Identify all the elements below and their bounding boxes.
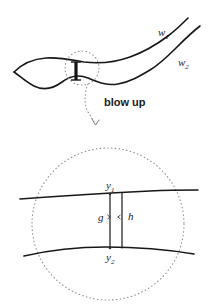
blow-up-connector: blow up (85, 84, 146, 125)
label-y2: y2 (105, 251, 115, 266)
lower-diagram: y1 y2 g h (20, 148, 198, 300)
label-w2: w2 (178, 56, 189, 71)
blow-up-arrowhead (92, 119, 99, 125)
curve-w2 (14, 26, 200, 89)
blow-up-circle (32, 148, 184, 300)
label-g: g (98, 211, 104, 223)
figure-canvas: w1 w2 blow up y1 (0, 0, 216, 305)
tick-h (118, 215, 120, 219)
label-y1: y1 (105, 179, 114, 194)
blow-up-label: blow up (104, 96, 146, 108)
blow-up-arrow (85, 84, 95, 124)
label-h: h (128, 210, 134, 222)
point-y2 (109, 247, 111, 249)
label-w1: w1 (158, 26, 169, 41)
upper-diagram: w1 w2 (14, 18, 200, 89)
